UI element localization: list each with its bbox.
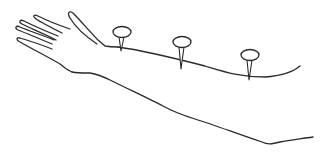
arm-drawing: [0, 0, 327, 155]
needle-2: [173, 37, 191, 70]
needle-head: [173, 37, 191, 48]
thumb-outline: [69, 12, 118, 47]
arm-bottom-contour: [72, 72, 313, 144]
arm-illustration: [0, 0, 327, 155]
arm-top-contour: [118, 47, 300, 77]
finger-little: [17, 38, 72, 72]
needle-head: [241, 50, 259, 61]
needle-shaft: [119, 37, 124, 51]
finger-middle: [20, 20, 58, 40]
needle-head: [113, 27, 131, 38]
finger-ring: [16, 26, 54, 44]
needle-shaft: [179, 47, 184, 69]
finger-index: [34, 15, 70, 33]
